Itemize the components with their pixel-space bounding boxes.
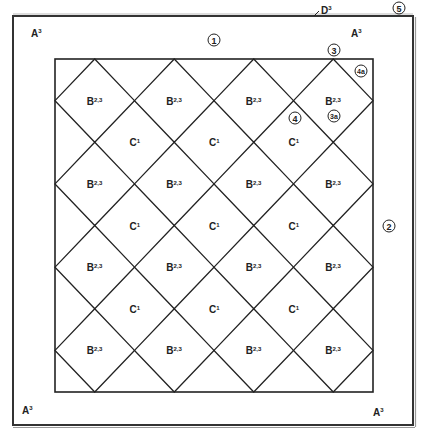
c-block-label: C1 bbox=[209, 137, 220, 148]
svg-text:2: 2 bbox=[386, 222, 391, 232]
circled-number-4a: 4a bbox=[355, 65, 367, 77]
svg-text:5: 5 bbox=[396, 4, 401, 14]
c-block-label: C1 bbox=[209, 221, 220, 232]
c-block-label: C1 bbox=[289, 221, 300, 232]
b-block-label: B2,3 bbox=[166, 179, 182, 190]
b-block-label: B2,3 bbox=[246, 262, 262, 273]
b-block-label: B2,3 bbox=[246, 96, 262, 107]
corner-label-bottom-right: A3 bbox=[373, 407, 384, 418]
svg-text:3: 3 bbox=[331, 46, 336, 56]
corner-label-top-left: A3 bbox=[31, 28, 42, 39]
b-block-label: B2,3 bbox=[325, 262, 341, 273]
svg-text:4a: 4a bbox=[357, 68, 365, 75]
circled-number-5: 5 bbox=[393, 2, 405, 14]
circled-number-2: 2 bbox=[383, 220, 395, 232]
b-block-label: B2,3 bbox=[246, 179, 262, 190]
b-block-label: B2,3 bbox=[166, 262, 182, 273]
b-block-label: B2,3 bbox=[87, 179, 103, 190]
svg-text:4: 4 bbox=[292, 114, 297, 124]
b-block-label: B2,3 bbox=[325, 96, 341, 107]
b-block-label: B2,3 bbox=[166, 345, 182, 356]
b-block-label: B2,3 bbox=[325, 345, 341, 356]
corner-label-bottom-left: A3 bbox=[22, 405, 33, 416]
block-labels: B2,3B2,3B2,3B2,3B2,3B2,3B2,3B2,3B2,3B2,3… bbox=[87, 96, 342, 357]
c-block-label: C1 bbox=[130, 304, 141, 315]
b-block-label: B2,3 bbox=[246, 345, 262, 356]
c-block-label: C1 bbox=[209, 304, 220, 315]
b-block-label: B2,3 bbox=[87, 262, 103, 273]
circled-number-3a: 3a bbox=[328, 110, 340, 122]
c-block-label: C1 bbox=[289, 137, 300, 148]
quilt-diagram: B2,3B2,3B2,3B2,3B2,3B2,3B2,3B2,3B2,3B2,3… bbox=[0, 0, 423, 441]
b-block-label: B2,3 bbox=[325, 179, 341, 190]
b-block-label: B2,3 bbox=[87, 96, 103, 107]
circled-number-1: 1 bbox=[208, 34, 220, 46]
b-block-label: B2,3 bbox=[166, 96, 182, 107]
corner-label-top-right: A3 bbox=[351, 28, 362, 39]
circled-number-4: 4 bbox=[289, 112, 301, 124]
circled-number-3: 3 bbox=[328, 44, 340, 56]
b-block-label: B2,3 bbox=[87, 345, 103, 356]
svg-text:3a: 3a bbox=[330, 113, 338, 120]
c-block-label: C1 bbox=[130, 221, 141, 232]
c-block-label: C1 bbox=[289, 304, 300, 315]
c-block-label: C1 bbox=[130, 137, 141, 148]
svg-text:1: 1 bbox=[211, 36, 216, 46]
